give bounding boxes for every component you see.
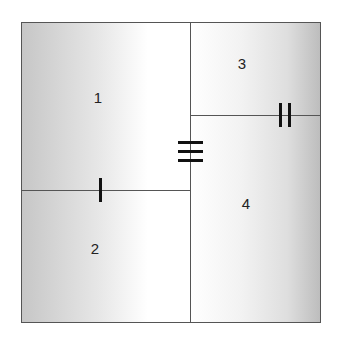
region-1-label: 1: [94, 90, 102, 105]
central-vertical-divider: [190, 22, 191, 323]
region-4: [190, 115, 320, 323]
tick-mark-line: [178, 150, 203, 153]
tick-mark-line: [178, 141, 203, 144]
region-3-label: 3: [238, 56, 246, 71]
right-horizontal-divider: [190, 115, 321, 116]
region-2: [21, 190, 190, 323]
outer-border-right: [320, 22, 321, 323]
outer-border-top: [21, 22, 321, 23]
region-1: [21, 22, 190, 190]
region-3: [190, 22, 320, 115]
region-2-label: 2: [91, 241, 99, 256]
tick-mark-line: [178, 159, 203, 162]
single-tick-mark: [99, 178, 102, 202]
tick-mark-line: [279, 103, 282, 127]
outer-border-bottom: [21, 322, 321, 323]
left-horizontal-divider: [21, 190, 191, 191]
region-4-label: 4: [242, 196, 250, 211]
tick-mark-line: [288, 103, 291, 127]
outer-border-left: [21, 22, 22, 323]
